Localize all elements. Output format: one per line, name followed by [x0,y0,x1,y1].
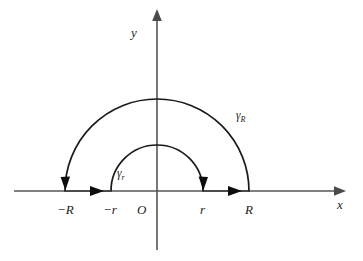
tick-label-small-r: r [200,203,205,216]
inner-arc-direction-arrowhead-icon [199,177,208,191]
inner-arc-label-base: γ [117,167,122,179]
outer-arc-label-base: γ [236,109,241,121]
right-segment-direction-arrowhead-icon [228,186,242,196]
contour-diagram-canvas [0,0,363,261]
x-axis-arrowhead-icon [334,186,346,196]
outer-arc-label-subscript: R [241,115,246,124]
tick-label-minus-small-r: −r [103,203,117,216]
y-axis-arrowhead-icon [152,9,162,21]
x-axis-label: x [337,198,343,211]
y-axis-label: y [131,26,137,39]
outer-arc-direction-arrowhead-icon [61,177,70,191]
tick-label-minus-big-r: −R [57,203,74,216]
tick-label-big-r: R [245,203,253,216]
left-segment-direction-arrowhead-icon [90,186,104,196]
inner-arc-label-subscript: r [122,173,125,182]
inner-arc-label: γr [117,168,125,180]
origin-label: O [137,203,146,216]
contour-diagram-figure: y x −R −r O r R γR γr [0,0,363,261]
outer-arc-label: γR [236,110,245,122]
